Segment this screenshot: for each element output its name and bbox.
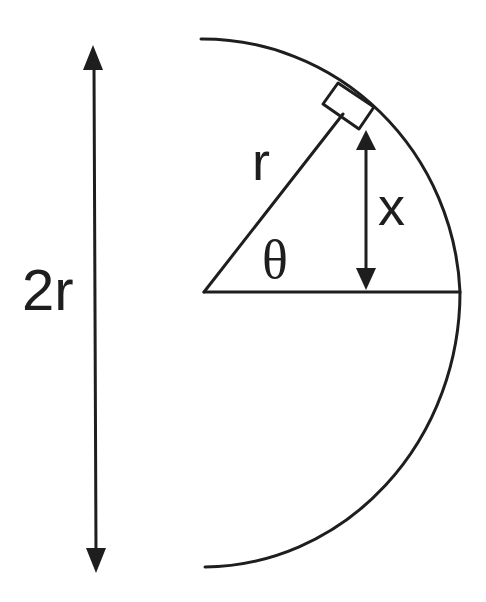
arrowhead-down-icon: [356, 268, 376, 290]
semicircle-arc: [201, 39, 460, 567]
label-diameter-2r: 2r: [22, 257, 74, 322]
arrowhead-up-icon: [356, 130, 376, 150]
diameter-2r-arrow-shaft: [94, 66, 96, 552]
label-radius: r: [252, 131, 270, 191]
label-angle-theta: θ: [262, 230, 288, 290]
arrowhead-down-icon: [86, 548, 106, 573]
block-on-arc: [323, 83, 374, 129]
label-height-x: x: [378, 176, 405, 236]
arrowhead-up-icon: [83, 45, 103, 70]
semicircle-diagram: r x θ 2r: [0, 0, 486, 602]
